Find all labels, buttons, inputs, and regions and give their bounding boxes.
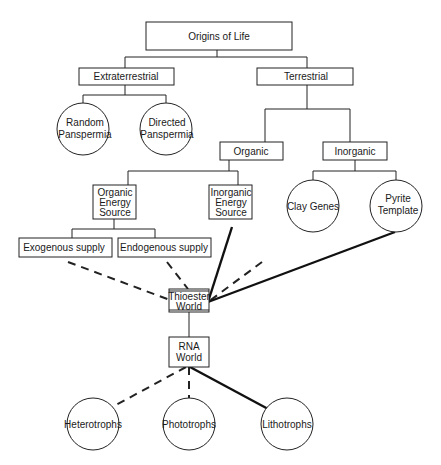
svg-text:Pyrite: Pyrite <box>385 193 411 204</box>
node-extraterrestrial: Extraterrestrial <box>79 68 174 85</box>
svg-text:Phototrophs: Phototrophs <box>162 419 216 430</box>
svg-text:Extraterrestrial: Extraterrestrial <box>93 71 158 82</box>
node-endogenous-supply: Endogenous supply <box>118 238 211 257</box>
node-clay-genes: Clay Genes <box>287 180 339 232</box>
node-thioester-world: Thioester World <box>168 289 210 312</box>
svg-text:Panspermia: Panspermia <box>140 129 194 140</box>
svg-text:Endogenous supply: Endogenous supply <box>120 242 208 253</box>
node-origins-of-life: Origins of Life <box>146 22 292 50</box>
svg-text:Inorganic: Inorganic <box>334 146 375 157</box>
origins-of-life-diagram: Origins of Life Extraterrestrial Terrest… <box>0 0 441 465</box>
svg-text:Clay Genes: Clay Genes <box>287 201 339 212</box>
thioester-connectors <box>68 227 395 302</box>
node-exogenous-supply: Exogenous supply <box>19 238 112 257</box>
node-rna-world: RNA World <box>169 337 209 367</box>
svg-text:Template: Template <box>378 205 419 216</box>
svg-text:Lithotrophs: Lithotrophs <box>262 419 311 430</box>
node-inorganic: Inorganic <box>323 142 387 160</box>
svg-text:Source: Source <box>215 207 247 218</box>
node-random-panspermia: Random Panspermia <box>57 103 112 155</box>
node-organic: Organic <box>220 142 283 160</box>
svg-text:World: World <box>176 352 202 363</box>
svg-text:RNA: RNA <box>178 341 199 352</box>
svg-text:Organic: Organic <box>233 146 268 157</box>
svg-text:Random: Random <box>66 117 104 128</box>
svg-text:Heterotrophs: Heterotrophs <box>64 419 122 430</box>
svg-text:Exogenous supply: Exogenous supply <box>23 242 105 253</box>
node-pyrite-template: Pyrite Template <box>370 180 422 232</box>
node-organic-energy-source: Organic Energy Source <box>93 185 136 219</box>
node-phototrophs: Phototrophs <box>162 398 216 450</box>
node-terrestrial: Terrestrial <box>257 68 353 85</box>
node-lithotrophs: Lithotrophs <box>261 398 313 450</box>
svg-text:Terrestrial: Terrestrial <box>284 71 328 82</box>
node-heterotrophs: Heterotrophs <box>64 398 122 450</box>
node-directed-panspermia: Directed Panspermia <box>140 103 194 155</box>
svg-text:Directed: Directed <box>148 117 185 128</box>
svg-text:World: World <box>176 301 202 312</box>
svg-text:Origins of Life: Origins of Life <box>188 31 250 42</box>
svg-text:Source: Source <box>99 207 131 218</box>
svg-text:Panspermia: Panspermia <box>58 129 112 140</box>
node-inorganic-energy-source: Inorganic Energy Source <box>209 185 252 219</box>
